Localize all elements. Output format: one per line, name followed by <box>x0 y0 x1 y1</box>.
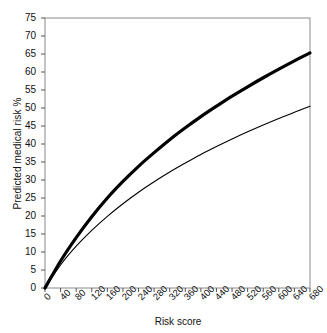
y-tick-label: 40 <box>12 139 36 149</box>
y-tick-label: 25 <box>12 193 36 203</box>
y-tick-label: 55 <box>12 85 36 95</box>
chart-figure: Predicted medical risk % Risk score 0510… <box>0 0 327 333</box>
y-tick-label: 20 <box>12 211 36 221</box>
y-tick-label: 30 <box>12 175 36 185</box>
plot-area <box>0 0 327 333</box>
y-tick-label: 15 <box>12 229 36 239</box>
x-axis-title: Risk score <box>45 316 311 327</box>
plot-frame <box>45 18 310 288</box>
y-tick-label: 75 <box>12 13 36 23</box>
y-tick-label: 45 <box>12 121 36 131</box>
y-tick-label: 0 <box>12 283 36 293</box>
y-tick-label: 10 <box>12 247 36 257</box>
y-tick-label: 60 <box>12 67 36 77</box>
y-tick-label: 50 <box>12 103 36 113</box>
y-tick-label: 65 <box>12 49 36 59</box>
y-tick-label: 35 <box>12 157 36 167</box>
y-axis-ticks <box>41 18 45 288</box>
y-tick-label: 70 <box>12 31 36 41</box>
y-tick-label: 5 <box>12 265 36 275</box>
